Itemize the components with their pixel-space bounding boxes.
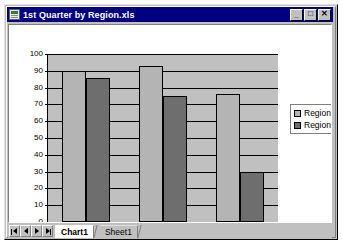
- minimize-button[interactable]: _: [290, 9, 303, 21]
- legend-item-region-2[interactable]: Region 2: [294, 119, 332, 131]
- legend-item-region-1[interactable]: Region 1: [294, 107, 332, 119]
- sheet-nav-buttons: [8, 225, 53, 238]
- sheet-tabs: Chart1 Sheet1: [55, 224, 332, 238]
- bar-january-series-2[interactable]: [86, 78, 110, 222]
- y-axis-tick-label: 30: [34, 168, 43, 176]
- chart-document-area: 1009080706050403020100 JanuaryFebruaryMa…: [8, 24, 332, 223]
- window-title: 1st Quarter by Region.xls: [23, 10, 290, 20]
- sheet-tab-chart1[interactable]: Chart1: [55, 225, 94, 238]
- next-sheet-icon: [35, 228, 39, 234]
- sheet-tab-sheet1[interactable]: Sheet1: [100, 225, 138, 238]
- maximize-icon: □: [305, 9, 316, 19]
- next-sheet-button[interactable]: [31, 225, 42, 237]
- legend-label-region-1: Region 1: [304, 108, 332, 118]
- tab-separator-end: [138, 225, 144, 238]
- y-axis-tick: [45, 222, 48, 223]
- x-axis-tick: [278, 222, 279, 223]
- y-axis-tick-label: 70: [34, 100, 43, 108]
- y-axis-tick-label: 20: [34, 184, 43, 192]
- legend-swatch-region-1: [294, 110, 301, 117]
- last-sheet-icon: [46, 228, 50, 234]
- bar-march-series-1[interactable]: [216, 94, 240, 222]
- first-sheet-bar-icon: [11, 229, 12, 235]
- x-axis-tick: [201, 222, 202, 223]
- chart-legend[interactable]: Region 1 Region 2: [290, 104, 332, 134]
- close-icon: ✕: [319, 9, 330, 19]
- bar-march-series-2[interactable]: [240, 172, 264, 222]
- previous-sheet-icon: [24, 228, 28, 234]
- y-axis-tick-label: 50: [34, 134, 43, 142]
- bar-series-layer[interactable]: [48, 54, 278, 222]
- y-axis-tick-label: 10: [34, 201, 43, 209]
- first-sheet-icon: [13, 228, 17, 234]
- bar-january-series-1[interactable]: [62, 71, 86, 222]
- y-axis-tick-label: 90: [34, 67, 43, 75]
- last-sheet-bar-icon: [50, 229, 51, 235]
- window-controls: _ □ ✕: [290, 9, 332, 21]
- y-axis-tick-label: 40: [34, 151, 43, 159]
- excel-workbook-icon: [9, 9, 20, 20]
- y-axis-tick-label: 0: [39, 218, 43, 223]
- last-sheet-button[interactable]: [42, 225, 53, 237]
- bar-february-series-1[interactable]: [139, 66, 163, 222]
- y-axis-tick-label: 100: [30, 50, 43, 58]
- y-axis-tick-labels: 1009080706050403020100: [19, 25, 43, 222]
- plot-area[interactable]: [47, 54, 278, 223]
- previous-sheet-button[interactable]: [20, 225, 31, 237]
- close-button[interactable]: ✕: [318, 9, 331, 21]
- minimize-icon: _: [291, 10, 302, 20]
- legend-swatch-region-2: [294, 122, 301, 129]
- title-bar[interactable]: 1st Quarter by Region.xls _ □ ✕: [7, 7, 333, 22]
- bar-chart[interactable]: 1009080706050403020100 JanuaryFebruaryMa…: [9, 25, 331, 222]
- maximize-button[interactable]: □: [304, 9, 317, 21]
- y-axis-tick-label: 80: [34, 84, 43, 92]
- x-axis-tick: [125, 222, 126, 223]
- sheet-tab-bar: Chart1 Sheet1: [8, 224, 332, 238]
- y-axis-tick-label: 60: [34, 117, 43, 125]
- legend-label-region-2: Region 2: [304, 120, 332, 130]
- bar-february-series-2[interactable]: [163, 96, 187, 222]
- chart-window: 1st Quarter by Region.xls _ □ ✕ 10090807…: [4, 4, 338, 240]
- first-sheet-button[interactable]: [9, 225, 20, 237]
